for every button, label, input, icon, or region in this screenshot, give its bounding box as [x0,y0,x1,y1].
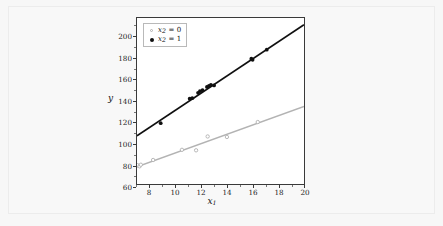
y-tickmark-180 [133,58,136,59]
x-tick-label-8: 8 [147,188,152,197]
x-tickmark-16 [253,185,254,188]
x-tick-label-16: 16 [248,188,257,197]
y-tickmark-120 [133,122,136,123]
y-minor-tickmark-170 [134,69,136,70]
y-tick-label-120: 120 [110,118,132,127]
y-tick-label-200: 200 [110,32,132,41]
x-minor-tickmark-13 [214,185,215,187]
x-tickmark-18 [279,185,280,188]
x-tick-label-12: 12 [196,188,205,197]
x-minor-tickmark-7 [136,185,137,187]
x-tick-label-14: 14 [222,188,231,197]
y-tick-label-60: 60 [110,183,132,192]
legend-label-x2-0: x2 = 0 [158,26,181,34]
x-tickmark-12 [201,185,202,188]
legend-item-x2-0: x2 = 0 [147,26,181,35]
y-minor-tickmark-210 [134,25,136,26]
x-tickmark-8 [149,185,150,188]
y-tick-label-140: 140 [110,96,132,105]
legend-label-x2-1: x2 = 1 [158,35,181,43]
x-axis-label-subscript: 1 [213,199,217,206]
y-tickmark-100 [133,144,136,145]
chart-legend: x2 = 0 x2 = 1 [143,23,187,47]
y-minor-tickmark-130 [134,112,136,113]
x-minor-tickmark-17 [266,185,267,187]
fit-line-x2-0 [137,107,304,167]
y-tick-label-100: 100 [110,139,132,148]
x-axis-label: x1 [207,196,216,206]
y-minor-tickmark-150 [134,90,136,91]
legend-open-circle-icon [147,29,156,33]
y-minor-tickmark-190 [134,47,136,48]
x-minor-tickmark-9 [162,185,163,187]
x-tickmark-10 [175,185,176,188]
y-tickmark-140 [133,101,136,102]
x-minor-tickmark-11 [188,185,189,187]
x-tick-label-20: 20 [300,188,309,197]
legend-item-x2-1: x2 = 1 [147,35,181,44]
y-minor-tickmark-70 [134,176,136,177]
x-minor-tickmark-15 [240,185,241,187]
y-tickmark-200 [133,36,136,37]
plot-area: x2 = 0 x2 = 1 [136,17,305,185]
y-tickmark-60 [133,187,136,188]
x-minor-tickmark-19 [292,185,293,187]
figure-canvas: y x1 200 180 160 140 120 100 80 60 8 10 … [0,0,443,226]
x-tickmark-20 [304,185,305,188]
x-tick-label-18: 18 [274,188,283,197]
y-tickmark-80 [133,166,136,167]
series-points-x2-1 [159,48,269,125]
x-tickmark-14 [227,185,228,188]
x-tick-label-10: 10 [170,188,179,197]
legend-filled-circle-icon [147,38,156,42]
y-tick-label-160: 160 [110,75,132,84]
y-tickmark-160 [133,79,136,80]
y-tick-label-180: 180 [110,53,132,62]
y-minor-tickmark-90 [134,155,136,156]
y-tick-label-80: 80 [110,161,132,170]
y-minor-tickmark-110 [134,133,136,134]
